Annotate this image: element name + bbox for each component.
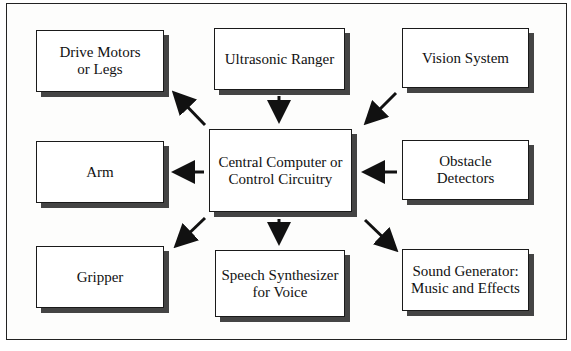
arrow-center-to-gripper xyxy=(180,218,205,242)
gripper-box: Gripper xyxy=(36,246,164,308)
central-computer-label-1: Central Computer or xyxy=(214,154,346,171)
arrow-center-to-drive xyxy=(178,97,205,125)
obstacle-detectors-label-2: Detectors xyxy=(433,170,498,187)
speech-synthesizer-label-1: Speech Synthesizer xyxy=(217,267,342,284)
sound-generator-label-2: Music and Effects xyxy=(407,280,524,297)
ultrasonic-ranger-label: Ultrasonic Ranger xyxy=(221,51,339,68)
drive-motors-label-1: Drive Motors xyxy=(55,44,144,61)
sound-generator-box: Sound Generator: Music and Effects xyxy=(402,249,529,311)
sound-generator-label-1: Sound Generator: xyxy=(407,263,524,280)
gripper-label: Gripper xyxy=(73,269,128,286)
central-computer-box: Central Computer or Control Circuitry xyxy=(209,129,352,212)
ultrasonic-ranger-box: Ultrasonic Ranger xyxy=(214,28,345,90)
speech-synthesizer-label-2: for Voice xyxy=(217,284,342,301)
arm-label: Arm xyxy=(82,164,118,181)
obstacle-detectors-box: Obstacle Detectors xyxy=(402,140,529,200)
vision-system-label: Vision System xyxy=(418,50,513,67)
central-computer-label-2: Control Circuitry xyxy=(214,171,346,188)
arrow-center-to-sound xyxy=(365,220,392,246)
drive-motors-label-2: or Legs xyxy=(55,61,144,78)
speech-synthesizer-box: Speech Synthesizer for Voice xyxy=(215,250,345,317)
obstacle-detectors-label-1: Obstacle xyxy=(433,153,498,170)
arm-box: Arm xyxy=(36,141,164,203)
drive-motors-box: Drive Motors or Legs xyxy=(36,30,164,92)
arrow-vision-to-center xyxy=(370,93,396,119)
vision-system-box: Vision System xyxy=(402,28,529,88)
